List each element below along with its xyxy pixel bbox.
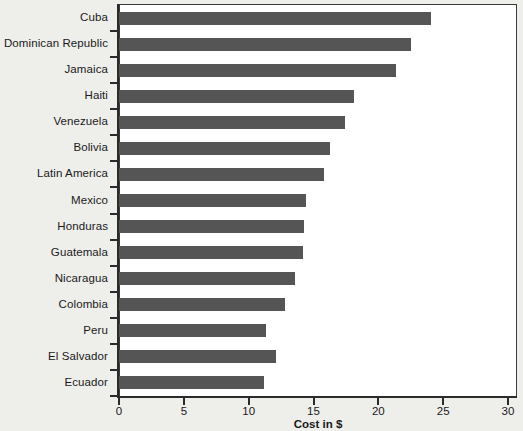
bar-row [119, 292, 516, 318]
bar-row [119, 214, 516, 240]
bar-row [119, 31, 516, 57]
x-tick-mark [313, 398, 315, 405]
bar-row [119, 83, 516, 109]
bar [119, 116, 345, 129]
y-tick-mark [110, 160, 117, 162]
bar [119, 64, 396, 77]
y-axis-label-peru: Peru [0, 324, 108, 336]
y-axis-label-haiti: Haiti [0, 89, 108, 101]
x-axis-label-20: 20 [372, 405, 385, 417]
y-tick-mark [110, 291, 117, 293]
y-tick-mark [110, 395, 117, 397]
bar [119, 298, 285, 311]
bar-row [119, 318, 516, 344]
bar-row [119, 135, 516, 161]
y-axis-label-guatemala: Guatemala [0, 246, 108, 258]
x-axis-label-5: 5 [181, 405, 187, 417]
x-tick-mark [507, 398, 509, 405]
y-tick-mark [110, 265, 117, 267]
bar-row [119, 240, 516, 266]
bar [119, 90, 354, 103]
bars-group [119, 5, 516, 396]
x-tick-mark [118, 398, 120, 405]
y-axis-label-el-salvador: El Salvador [0, 350, 108, 362]
x-tick-mark [248, 398, 250, 405]
y-tick-mark [110, 108, 117, 110]
x-tick-mark [183, 398, 185, 405]
bar [119, 350, 276, 363]
y-tick-mark [110, 213, 117, 215]
bar-row [119, 109, 516, 135]
bar-row [119, 344, 516, 370]
y-tick-mark [110, 82, 117, 84]
bar-row [119, 161, 516, 187]
bar [119, 194, 306, 207]
x-axis-label-25: 25 [437, 405, 450, 417]
y-axis-label-mexico: Mexico [0, 194, 108, 206]
bar-row [119, 370, 516, 396]
x-axis-label-30: 30 [502, 405, 515, 417]
y-tick-mark [110, 30, 117, 32]
bar [119, 220, 304, 233]
bar-chart: CubaDominican RepublicJamaicaHaitiVenezu… [0, 0, 523, 431]
bar [119, 142, 330, 155]
y-axis-label-latin-america: Latin America [0, 167, 108, 179]
y-axis-label-jamaica: Jamaica [0, 63, 108, 75]
y-tick-mark [110, 186, 117, 188]
bar-row [119, 5, 516, 31]
x-axis-title: Cost in $ [119, 418, 517, 430]
y-axis-label-honduras: Honduras [0, 220, 108, 232]
y-tick-mark [110, 134, 117, 136]
y-tick-mark [110, 317, 117, 319]
bar [119, 376, 264, 389]
bar [119, 324, 266, 337]
y-axis-tick-labels: CubaDominican RepublicJamaicaHaitiVenezu… [0, 5, 108, 396]
y-axis-label-cuba: Cuba [0, 11, 108, 23]
y-axis-label-dominican-republic: Dominican Republic [0, 37, 108, 49]
x-axis-label-10: 10 [242, 405, 255, 417]
y-tick-mark [110, 343, 117, 345]
bar [119, 38, 411, 51]
bar-row [119, 266, 516, 292]
bar [119, 168, 324, 181]
y-tick-mark [110, 56, 117, 58]
y-axis-label-colombia: Colombia [0, 298, 108, 310]
bar [119, 12, 431, 25]
y-axis-label-bolivia: Bolivia [0, 141, 108, 153]
x-axis-label-15: 15 [307, 405, 320, 417]
y-tick-mark [110, 239, 117, 241]
x-tick-mark [377, 398, 379, 405]
bar [119, 246, 303, 259]
y-tick-mark [110, 369, 117, 371]
bar-row [119, 57, 516, 83]
y-axis-label-nicaragua: Nicaragua [0, 272, 108, 284]
y-axis-label-ecuador: Ecuador [0, 376, 108, 388]
bar [119, 272, 295, 285]
y-axis-label-venezuela: Venezuela [0, 115, 108, 127]
x-axis-line [117, 396, 517, 398]
bar-row [119, 187, 516, 213]
x-axis-label-0: 0 [116, 405, 122, 417]
x-tick-mark [442, 398, 444, 405]
